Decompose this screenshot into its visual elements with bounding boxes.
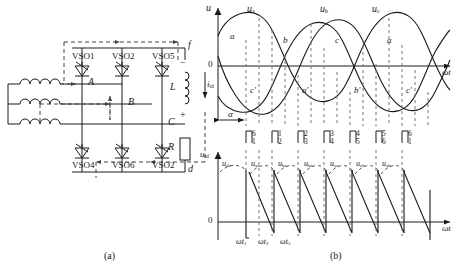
node-label-b: B — [128, 97, 134, 107]
segment-label-2: ubc — [278, 160, 287, 169]
phase-waveforms — [218, 12, 450, 114]
wt-sub: 1 — [244, 241, 246, 246]
resistor-label: R — [168, 142, 174, 152]
inductor-label: L — [170, 82, 176, 92]
wt-base: ωt — [258, 237, 266, 246]
node-label-c: C — [168, 117, 175, 127]
caption-b: (b) — [330, 250, 342, 261]
intersection-bprime: b′ — [354, 86, 360, 95]
conduction-pair-6: 6 1 — [408, 130, 412, 146]
seg-sub: ab — [386, 163, 391, 168]
node-label-a: A — [88, 77, 94, 87]
ub-sub: b — [325, 7, 328, 14]
time-mark-1: ωt1 — [236, 238, 246, 247]
conduction-pair-5: 5 6 — [382, 130, 386, 146]
phase-label-uc: uc — [372, 4, 380, 15]
lower-origin-label: 0 — [208, 216, 213, 225]
thyristor-label-2: VSO2 — [152, 161, 175, 170]
thyristor-label-6: VSO6 — [112, 161, 135, 170]
upper-origin-label: 0 — [208, 60, 213, 69]
conduction-pair-1: 1 2 — [278, 130, 282, 146]
segment-label-5: ucb — [356, 160, 365, 169]
seg-sub: cb — [360, 163, 365, 168]
utd-sub: td — [205, 153, 209, 159]
wt-sub: 3 — [288, 241, 290, 246]
intersection-a1: a — [230, 32, 235, 41]
thyristor-label-4: VSO4 — [72, 161, 95, 170]
lower-xaxis-label: ωt — [442, 224, 451, 233]
intersection-cprime2: c′ — [406, 86, 412, 95]
load-inductor — [185, 72, 189, 104]
seg-sub: ab — [226, 163, 231, 168]
seg-sub: ca — [334, 163, 338, 168]
pair-bottom: 5 — [356, 138, 360, 146]
omega-t-text: ωt — [442, 67, 451, 77]
pair-bottom: 4 — [330, 138, 334, 146]
terminal-label-d: d — [188, 164, 193, 174]
ua-sub: a — [252, 7, 255, 14]
time-mark-3: ωt3 — [280, 238, 290, 247]
wt-base: ωt — [280, 237, 288, 246]
intersection-a2: a — [387, 36, 392, 45]
current-subscript: td — [210, 83, 214, 89]
intersection-cprime1: c′ — [250, 86, 256, 95]
segment-label-4: uca — [330, 160, 338, 169]
segment-label-0: uab — [222, 160, 231, 169]
segment-label-3: uba — [304, 160, 313, 169]
phase-label-ua: ua — [247, 4, 255, 15]
pair-bottom: 3 — [304, 138, 308, 146]
intersection-c: c — [335, 36, 339, 45]
phase-label-ub: ub — [320, 4, 328, 15]
figure-root: VSO1 VSO2 VSO5 VSO4 VSO6 VSO2 A B C f d … — [0, 0, 460, 268]
thyristor-label-1: VSO1 — [72, 52, 95, 61]
time-mark-2: ωt2 — [258, 238, 268, 247]
segment-label-1: uac — [251, 160, 259, 169]
intersection-aprime: a′ — [302, 86, 308, 95]
polarity-minus: − — [180, 58, 186, 68]
upper-xaxis-label: ωt — [442, 68, 451, 77]
lower-yaxis-label: utd — [200, 150, 209, 160]
conduction-pair-2: 2 3 — [304, 130, 308, 146]
uc-sub: c — [377, 7, 380, 14]
load-resistor — [180, 138, 190, 160]
terminal-label-f: f — [188, 40, 191, 50]
wt-base: ωt — [236, 237, 244, 246]
thyristor-label-3: VSO2 — [112, 52, 135, 61]
pair-bottom: 2 — [278, 138, 282, 146]
upper-plot-axes — [215, 8, 451, 120]
intersection-b: b — [283, 36, 288, 45]
seg-sub: ba — [308, 163, 313, 168]
conduction-pair-0: 6 1 — [252, 130, 256, 146]
upper-yaxis-label: u — [206, 3, 211, 13]
load-current-label: itd — [207, 80, 214, 90]
caption-a: (a) — [104, 250, 115, 261]
segment-label-6: uab — [382, 160, 391, 169]
seg-sub: ac — [255, 163, 259, 168]
pair-bottom: 1 — [408, 138, 412, 146]
seg-sub: bc — [282, 163, 287, 168]
alpha-label: α — [228, 110, 233, 119]
transformer-windings — [8, 79, 72, 124]
wt-sub: 2 — [266, 241, 268, 246]
conduction-pair-4: 4 5 — [356, 130, 360, 146]
pair-bottom: 6 — [382, 138, 386, 146]
thyristor-label-5: VSO5 — [152, 52, 175, 61]
pair-bottom: 1 — [252, 138, 256, 146]
conduction-pair-3: 3 4 — [330, 130, 334, 146]
polarity-plus: + — [180, 110, 186, 120]
